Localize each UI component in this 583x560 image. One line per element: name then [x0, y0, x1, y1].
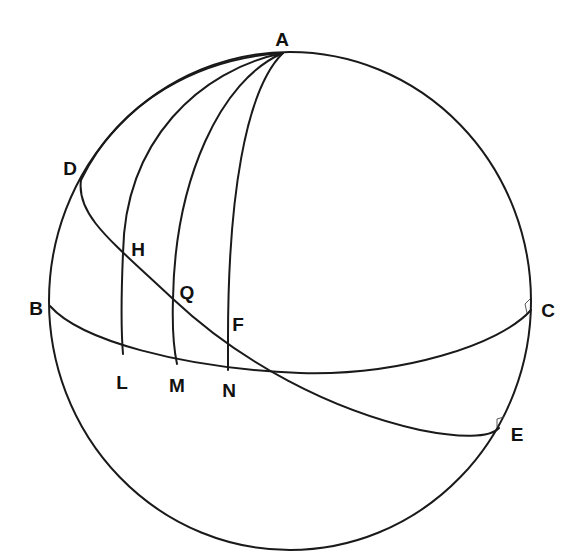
label-b: B — [29, 298, 43, 319]
label-c: C — [541, 300, 555, 321]
label-m: M — [169, 375, 185, 396]
label-n: N — [222, 380, 236, 401]
great-circle-d-e — [81, 180, 499, 436]
label-a: A — [275, 29, 289, 50]
label-l: L — [116, 372, 128, 393]
label-e: E — [511, 424, 524, 445]
label-h: H — [131, 239, 145, 260]
sphere-diagram: A B C D E H Q F L M N — [0, 0, 583, 560]
meridian-a-l — [122, 53, 284, 354]
label-q: Q — [180, 282, 195, 303]
label-d: D — [63, 158, 77, 179]
label-f: F — [232, 314, 244, 335]
